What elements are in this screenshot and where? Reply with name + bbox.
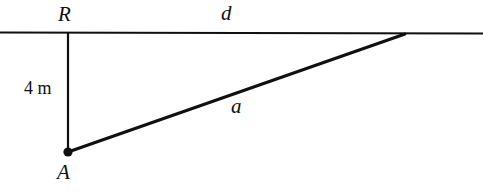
diagram-canvas [0,0,483,194]
geometry-diagram: R d a A 4 m [0,0,483,194]
ground-line [0,33,483,34]
vertex-label-a: A [57,162,70,183]
segment-label-a: a [231,96,242,117]
vertex-label-r: R [58,4,71,25]
segment-label-d: d [221,3,232,24]
vertical-length-label: 4 m [24,79,52,97]
vertex-a-dot [63,147,72,156]
hypotenuse-line [68,34,405,152]
